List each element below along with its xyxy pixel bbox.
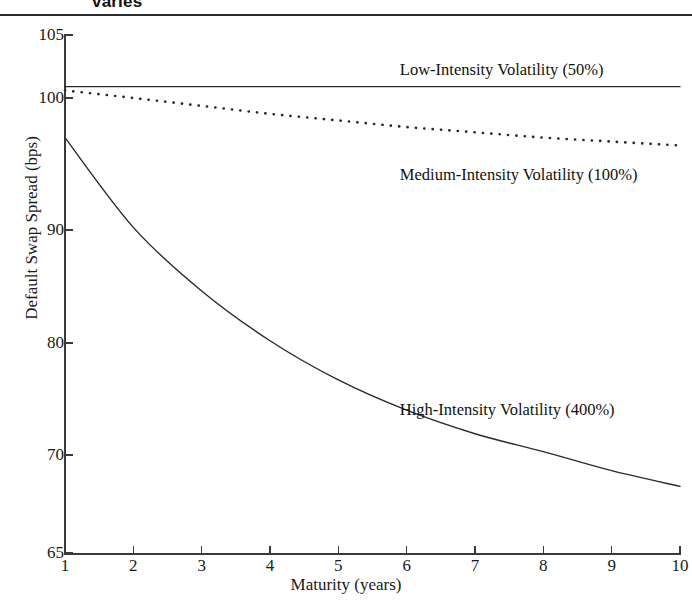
series-line-1	[65, 90, 680, 145]
series-label-medium-intensity: Medium-Intensity Volatility (100%)	[400, 165, 638, 185]
chart-figure: varies Default Swap Spread (bps) Maturit…	[0, 0, 692, 608]
series-label-low-intensity: Low-Intensity Volatility (50%)	[400, 60, 604, 80]
series-label-high-intensity: High-Intensity Volatility (400%)	[400, 400, 615, 420]
plot-area	[0, 0, 692, 608]
series-line-2	[65, 138, 680, 487]
